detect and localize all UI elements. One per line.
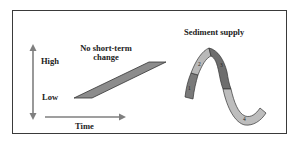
diagram-canvas: 1 2 3 4 [0, 0, 304, 146]
segment-1-number: 1 [188, 85, 191, 91]
low-label: Low [42, 93, 58, 102]
sediment-supply-wave: 1 2 3 4 [185, 48, 266, 125]
sediment-supply-title: Sediment supply [184, 28, 244, 37]
no-change-title: No short-term change [80, 44, 132, 63]
high-label: High [41, 57, 59, 66]
wave-segment-3 [209, 48, 231, 89]
time-axis-arrow [45, 114, 126, 121]
constant-supply-band [74, 62, 166, 98]
wave-segment-2 [191, 48, 211, 75]
segment-4-number: 4 [243, 116, 246, 122]
time-label: Time [75, 122, 94, 131]
wave-segment-1 [185, 73, 198, 99]
segment-2-number: 2 [198, 61, 201, 67]
vertical-axis-arrow [30, 44, 37, 120]
segment-3-number: 3 [220, 62, 223, 68]
